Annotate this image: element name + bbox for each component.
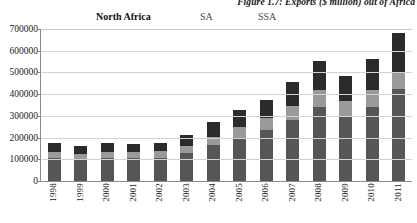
- bar-2008: [313, 61, 326, 182]
- bar-segment-ssa: [339, 116, 352, 181]
- bar-segment-ssa: [313, 107, 326, 181]
- bar-segment-ssa: [101, 158, 114, 181]
- bar-segment-sa: [260, 118, 273, 130]
- bar-1998: [48, 143, 61, 181]
- bar-segment-sa: [48, 152, 61, 158]
- bar-segment-north-africa: [233, 110, 246, 127]
- bar-segment-ssa: [286, 120, 299, 181]
- y-axis-label: 300000: [10, 111, 39, 121]
- bar-segment-ssa: [366, 107, 379, 181]
- x-axis-label: 2011: [393, 183, 403, 201]
- gridline: [41, 72, 412, 73]
- x-axis-label: 2003: [181, 183, 191, 202]
- x-axis-label: 2006: [260, 183, 270, 202]
- bar-2002: [154, 143, 167, 181]
- bar-2009: [339, 76, 352, 181]
- y-axis-label: 700000: [10, 24, 39, 34]
- x-axis-label: 2001: [128, 183, 138, 202]
- bar-segment-north-africa: [339, 76, 352, 101]
- legend-item-sa: SA: [200, 11, 213, 22]
- bar-segment-sa: [392, 72, 405, 89]
- bar-segment-north-africa: [180, 135, 193, 146]
- chart-legend: North Africa SA SSA: [0, 11, 417, 25]
- bar-2005: [233, 110, 246, 181]
- bar-segment-sa: [339, 101, 352, 116]
- x-axis-label: 2008: [313, 183, 323, 202]
- bar-segment-sa: [366, 90, 379, 107]
- y-axis-tick: [38, 181, 41, 182]
- bar-segment-ssa: [180, 153, 193, 181]
- chart-figure: Figure 1.7: Exports ($ million) out of A…: [0, 0, 417, 223]
- x-axis-label: 1999: [75, 183, 85, 202]
- legend-item-north-africa: North Africa: [96, 11, 151, 22]
- bar-segment-ssa: [127, 158, 140, 181]
- bar-segment-sa: [101, 152, 114, 158]
- bar-2006: [260, 100, 273, 181]
- figure-title: Figure 1.7: Exports ($ million) out of A…: [0, 0, 417, 7]
- gridline: [41, 138, 412, 139]
- bar-segment-north-africa: [392, 33, 405, 71]
- bar-segment-sa: [154, 151, 167, 157]
- y-axis-tick: [38, 159, 41, 160]
- y-axis-tick: [38, 116, 41, 117]
- bar-segment-north-africa: [127, 144, 140, 153]
- bar-2001: [127, 144, 140, 181]
- bar-segment-north-africa: [48, 143, 61, 152]
- bar-2007: [286, 82, 299, 181]
- gridline: [41, 94, 412, 95]
- bar-segment-ssa: [392, 89, 405, 181]
- bar-segment-sa: [233, 127, 246, 137]
- bar-segment-north-africa: [207, 122, 220, 136]
- y-axis-tick: [38, 51, 41, 52]
- gridline: [41, 29, 412, 30]
- x-axis-label: 2007: [287, 183, 297, 202]
- y-axis-label: 200000: [10, 133, 39, 143]
- bar-group: [41, 29, 412, 181]
- x-axis: 1998199920002001200220032004200520062007…: [40, 183, 411, 223]
- gridline: [41, 116, 412, 117]
- bar-segment-sa: [180, 146, 193, 153]
- bar-segment-north-africa: [366, 59, 379, 89]
- x-axis-label: 2010: [366, 183, 376, 202]
- y-axis-tick: [38, 138, 41, 139]
- bar-1999: [74, 146, 87, 181]
- bar-segment-north-africa: [101, 143, 114, 152]
- bar-segment-ssa: [74, 160, 87, 181]
- bar-segment-north-africa: [154, 143, 167, 152]
- y-axis-label: 600000: [10, 46, 39, 56]
- gridline: [41, 159, 412, 160]
- bar-2003: [180, 135, 193, 181]
- bar-segment-north-africa: [313, 61, 326, 90]
- legend-item-ssa: SSA: [258, 11, 276, 22]
- y-axis-tick: [38, 29, 41, 30]
- x-axis-label: 1998: [48, 183, 58, 202]
- x-axis-label: 2002: [154, 183, 164, 202]
- y-axis-tick: [38, 72, 41, 73]
- y-axis-tick: [38, 94, 41, 95]
- y-axis-label: 500000: [10, 67, 39, 77]
- bar-2004: [207, 122, 220, 181]
- x-axis-label: 2005: [234, 183, 244, 202]
- x-axis-label: 2004: [207, 183, 217, 202]
- bar-segment-sa: [127, 152, 140, 158]
- x-axis-label: 2000: [101, 183, 111, 202]
- plot-area: [40, 29, 412, 182]
- bar-segment-sa: [313, 90, 326, 107]
- bar-2000: [101, 143, 114, 181]
- y-axis: 0100000200000300000400000500000600000700…: [0, 29, 38, 181]
- y-axis-label: 100000: [10, 154, 39, 164]
- gridline: [41, 51, 412, 52]
- bar-segment-ssa: [154, 158, 167, 181]
- bar-segment-ssa: [207, 145, 220, 181]
- bar-2010: [366, 59, 379, 181]
- y-axis-label: 400000: [10, 89, 39, 99]
- bar-segment-north-africa: [74, 146, 87, 154]
- bar-segment-ssa: [48, 158, 61, 181]
- x-axis-label: 2009: [340, 183, 350, 202]
- bar-segment-sa: [286, 106, 299, 120]
